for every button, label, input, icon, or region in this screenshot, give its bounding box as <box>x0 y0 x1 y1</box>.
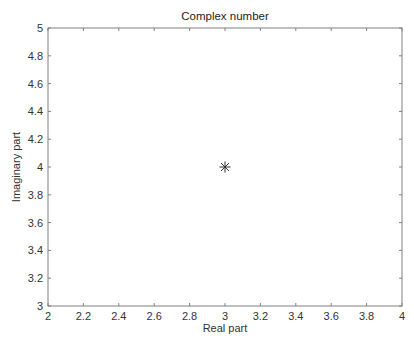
x-tick-label: 3.8 <box>359 310 374 322</box>
x-tick-label: 3 <box>222 310 228 322</box>
y-tick-label: 3.6 <box>28 217 43 229</box>
y-tick-label: 3 <box>37 300 43 312</box>
x-tick-label: 2.8 <box>182 310 197 322</box>
asterisk-marker-icon <box>220 162 231 173</box>
y-tick-label: 4.8 <box>28 50 43 62</box>
y-tick-label: 3.8 <box>28 189 43 201</box>
x-tick-label: 3.6 <box>324 310 339 322</box>
x-axis-ticks: 22.22.42.62.833.23.43.63.84 <box>45 28 405 322</box>
x-tick-label: 2.4 <box>111 310 126 322</box>
y-axis-ticks: 33.23.43.63.844.24.44.64.85 <box>28 22 402 312</box>
y-tick-label: 5 <box>37 22 43 34</box>
x-tick-label: 3.4 <box>288 310 303 322</box>
x-axis-label: Real part <box>203 322 248 334</box>
y-tick-label: 3.2 <box>28 272 43 284</box>
y-tick-label: 4.2 <box>28 133 43 145</box>
y-tick-label: 3.4 <box>28 244 43 256</box>
x-tick-label: 2 <box>45 310 51 322</box>
chart-figure: Complex number 22.22.42.62.833.23.43.63.… <box>0 0 414 347</box>
y-axis-label: Imaginary part <box>10 132 22 202</box>
data-points <box>220 162 231 173</box>
chart-title: Complex number <box>181 10 269 22</box>
y-tick-label: 4.4 <box>28 105 43 117</box>
y-tick-label: 4 <box>37 161 43 173</box>
x-tick-label: 3.2 <box>253 310 268 322</box>
x-tick-label: 2.2 <box>76 310 91 322</box>
x-tick-label: 4 <box>399 310 405 322</box>
y-tick-label: 4.6 <box>28 78 43 90</box>
x-tick-label: 2.6 <box>147 310 162 322</box>
